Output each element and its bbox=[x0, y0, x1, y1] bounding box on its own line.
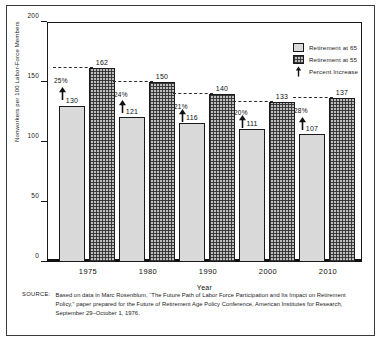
bar-value-55-1980: 150 bbox=[156, 73, 168, 80]
bar-value-65-1975: 130 bbox=[66, 97, 78, 104]
bar-retirement-65-1980[interactable] bbox=[119, 117, 145, 262]
increase-arrow-icon-1980 bbox=[118, 100, 127, 113]
bar-group-2000: 111 133 20% bbox=[239, 22, 297, 262]
bar-retirement-65-2000[interactable] bbox=[239, 129, 265, 262]
y-tick-label-150: 150 bbox=[28, 72, 39, 79]
bar-value-55-2000: 133 bbox=[276, 93, 288, 100]
legend-swatch-light-icon bbox=[293, 43, 304, 52]
bar-value-65-1990: 116 bbox=[186, 114, 198, 121]
source-label: SOURCE: bbox=[22, 291, 51, 297]
bar-retirement-55-1980[interactable] bbox=[149, 82, 175, 262]
legend-label-retirement-55: Retirement at 55 bbox=[309, 56, 357, 63]
legend-label-percent-increase: Percent Increase bbox=[309, 68, 358, 75]
source-note: SOURCE: Based on data in Marc Rosenblum,… bbox=[22, 291, 362, 318]
x-tick-label-1990: 1990 bbox=[199, 267, 217, 276]
legend: Retirement at 65 Retirement at 55 Percen… bbox=[293, 42, 381, 78]
bar-retirement-55-1975[interactable] bbox=[89, 68, 115, 262]
increase-label-1980: 24% bbox=[114, 91, 128, 98]
x-tick-label-1980: 1980 bbox=[139, 267, 157, 276]
bar-retirement-65-1975[interactable] bbox=[59, 106, 85, 262]
bar-value-55-1990: 140 bbox=[216, 85, 228, 92]
legend-up-arrow-icon bbox=[293, 66, 304, 77]
y-axis-title: Nonworkers per 100 Labor-Force Members bbox=[14, 21, 20, 142]
increase-arrow-icon-2010 bbox=[298, 117, 307, 130]
y-tick-150 bbox=[41, 81, 47, 82]
increase-arrow-icon-1990 bbox=[178, 109, 187, 122]
bar-retirement-55-1990[interactable] bbox=[209, 94, 235, 262]
x-tick-label-1975: 1975 bbox=[79, 267, 97, 276]
increase-connector-2010 bbox=[293, 97, 333, 98]
legend-item-retirement-55[interactable]: Retirement at 55 bbox=[293, 54, 381, 65]
bar-retirement-65-1990[interactable] bbox=[179, 123, 205, 262]
increase-arrow-icon-2000 bbox=[238, 115, 247, 128]
y-tick-label-50: 50 bbox=[31, 192, 39, 199]
legend-label-retirement-65: Retirement at 65 bbox=[309, 44, 357, 51]
bar-group-1980: 121 150 24% bbox=[119, 22, 177, 262]
bar-group-1975: 130 162 25% bbox=[59, 22, 117, 262]
x-axis-title: Year bbox=[197, 284, 212, 291]
plot-area: 0 50 100 150 200 130 162 25% 121 bbox=[47, 22, 362, 262]
bar-value-55-2010: 137 bbox=[336, 89, 348, 96]
increase-connector-1980 bbox=[113, 81, 153, 82]
y-tick-0 bbox=[41, 261, 47, 262]
bar-retirement-65-2010[interactable] bbox=[299, 134, 325, 262]
source-text: Based on data in Marc Rosenblum, “The Fu… bbox=[56, 291, 362, 318]
increase-label-1975: 25% bbox=[54, 77, 68, 84]
bar-retirement-55-2000[interactable] bbox=[269, 102, 295, 262]
y-tick-label-100: 100 bbox=[28, 132, 39, 139]
y-tick-100 bbox=[41, 141, 47, 142]
x-tick-label-2000: 2000 bbox=[259, 267, 277, 276]
increase-connector-1975 bbox=[53, 67, 93, 68]
increase-connector-2000 bbox=[233, 101, 273, 102]
bar-value-65-2010: 107 bbox=[306, 125, 318, 132]
increase-arrow-icon-1975 bbox=[58, 87, 67, 100]
bar-value-65-2000: 111 bbox=[246, 120, 257, 127]
y-tick-50 bbox=[41, 201, 47, 202]
increase-label-2010: 28% bbox=[294, 107, 308, 114]
y-tick-label-0: 0 bbox=[35, 252, 39, 259]
legend-item-retirement-65[interactable]: Retirement at 65 bbox=[293, 42, 381, 53]
bar-group-1990: 116 140 21% bbox=[179, 22, 237, 262]
bar-retirement-55-2010[interactable] bbox=[329, 98, 355, 262]
bar-value-65-1980: 121 bbox=[126, 108, 138, 115]
legend-item-percent-increase[interactable]: Percent Increase bbox=[293, 66, 381, 77]
y-tick-label-200: 200 bbox=[28, 12, 39, 19]
increase-connector-1990 bbox=[173, 93, 213, 94]
y-tick-200 bbox=[41, 21, 47, 22]
x-tick-label-2010: 2010 bbox=[319, 267, 337, 276]
bar-value-55-1975: 162 bbox=[96, 59, 108, 66]
legend-swatch-hatched-icon bbox=[293, 55, 304, 64]
figure-container: Nonworkers per 100 Labor-Force Members 0… bbox=[0, 0, 381, 341]
